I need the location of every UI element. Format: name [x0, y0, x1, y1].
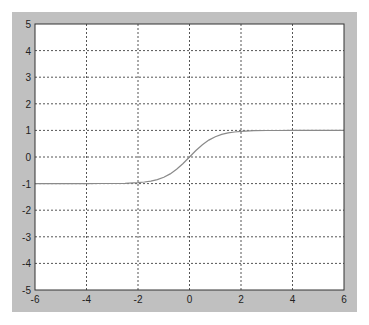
y-tick-label: -4	[22, 258, 31, 269]
x-tick-label: -6	[31, 294, 40, 305]
x-tick-label: -4	[82, 294, 91, 305]
y-tick-label: -5	[22, 285, 31, 296]
x-tick-label: -2	[134, 294, 143, 305]
y-axis-ticks: -5-4-3-2-1012345	[22, 19, 31, 296]
y-tick-label: -2	[22, 205, 31, 216]
x-tick-label: 2	[238, 294, 244, 305]
y-tick-label: 1	[25, 125, 31, 136]
x-tick-label: 6	[341, 294, 347, 305]
line-chart: -6-4-20246 -5-4-3-2-1012345	[0, 0, 369, 325]
y-tick-label: -3	[22, 232, 31, 243]
x-axis-ticks: -6-4-20246	[31, 294, 348, 305]
y-tick-label: 3	[25, 72, 31, 83]
y-tick-label: 4	[25, 46, 31, 57]
y-tick-label: 2	[25, 99, 31, 110]
x-tick-label: 0	[187, 294, 193, 305]
y-tick-label: 0	[25, 152, 31, 163]
x-tick-label: 4	[290, 294, 296, 305]
y-tick-label: -1	[22, 179, 31, 190]
y-tick-label: 5	[25, 19, 31, 30]
